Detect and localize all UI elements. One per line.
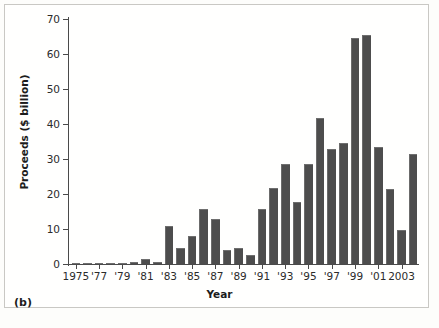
bar-1986 [199,209,208,264]
bar-1976 [83,263,92,264]
bar-1980 [130,262,139,264]
x-tick-1995 [308,265,309,269]
x-tick-1983 [169,265,170,269]
bar-1981 [141,259,150,264]
figure-panel: 010203040506070 Proceeds ($ billion) 197… [0,0,439,328]
y-tick-label-10: 10 [20,224,60,234]
x-tick-1977 [99,265,100,269]
x-axis-line [68,264,419,265]
x-tick-label-1983: '83 [161,270,177,282]
plot-area [68,19,417,264]
bar-1975 [72,263,81,264]
bar-2003 [397,230,406,264]
x-tick-label-1999: '99 [347,270,363,282]
x-tick-label-1979: '79 [114,270,130,282]
x-tick-label-1977: '77 [91,270,107,282]
x-tick-label-1981: '81 [137,270,153,282]
x-tick-1997 [332,265,333,269]
x-tick-label-2003: 2003 [388,270,415,282]
bar-2000 [362,35,371,264]
bar-1977 [95,263,104,264]
bar-1978 [106,263,115,264]
bar-1985 [188,236,197,264]
y-tick-0 [63,264,69,265]
bar-1979 [118,263,127,264]
bar-1994 [293,202,302,264]
bar-series [68,19,417,264]
y-axis-title: Proceeds ($ billion) [18,42,30,222]
x-tick-1999 [355,265,356,269]
bar-1997 [327,149,336,264]
x-tick-2001 [378,265,379,269]
bar-extra [409,154,418,264]
x-tick-label-1975: 1975 [62,270,89,282]
x-tick-label-1993: '93 [277,270,293,282]
x-tick-1989 [239,265,240,269]
x-tick-label-1995: '95 [300,270,316,282]
bar-1996 [316,118,325,264]
panel-label: (b) [14,296,32,309]
bar-1988 [223,250,232,264]
x-tick-1985 [192,265,193,269]
x-tick-1993 [285,265,286,269]
bar-1991 [258,209,267,264]
bar-1989 [234,248,243,264]
bar-1999 [351,38,360,264]
x-axis-title: Year [0,288,439,300]
bar-1993 [281,164,290,264]
x-tick-1975 [76,265,77,269]
bar-1984 [176,248,185,264]
x-tick-1991 [262,265,263,269]
bar-2002 [386,189,395,264]
x-tick-1987 [215,265,216,269]
x-tick-label-1987: '87 [207,270,223,282]
bar-1992 [269,188,278,264]
x-tick-2003 [402,265,403,269]
y-tick-label-0: 0 [20,259,60,269]
x-tick-label-1989: '89 [231,270,247,282]
x-tick-label-1991: '91 [254,270,270,282]
bar-1995 [304,164,313,264]
x-tick-1979 [122,265,123,269]
y-tick-label-70: 70 [20,14,60,24]
bar-2001 [374,147,383,264]
x-tick-label-2001: '01 [370,270,386,282]
bar-1983 [165,226,174,265]
x-tick-label-1985: '85 [184,270,200,282]
x-tick-1981 [146,265,147,269]
bar-1990 [246,255,255,264]
bar-1998 [339,143,348,264]
bar-1987 [211,219,220,265]
bar-1982 [153,262,162,264]
x-tick-label-1997: '97 [324,270,340,282]
